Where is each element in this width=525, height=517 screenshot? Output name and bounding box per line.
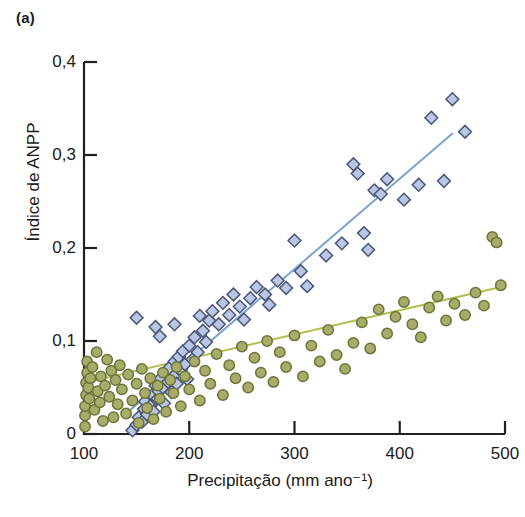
y-axis-tick-label: 0 — [20, 424, 76, 444]
data-point — [357, 317, 367, 327]
data-point — [152, 380, 162, 390]
data-point — [348, 338, 358, 348]
data-point — [161, 406, 171, 416]
data-point — [91, 347, 101, 357]
data-point — [140, 388, 150, 398]
data-point — [446, 93, 459, 106]
data-point — [432, 291, 442, 301]
data-point — [331, 350, 341, 360]
data-point — [110, 375, 120, 385]
data-point — [168, 318, 181, 331]
data-point — [407, 319, 417, 329]
data-point — [217, 296, 230, 309]
data-point — [275, 347, 285, 357]
data-point — [496, 280, 506, 290]
data-point — [362, 243, 375, 256]
data-point — [102, 354, 112, 364]
data-point — [449, 299, 459, 309]
data-point — [459, 125, 472, 138]
data-point — [249, 353, 259, 363]
data-point — [425, 111, 438, 124]
data-point — [460, 310, 470, 320]
x-axis-tick-label: 200 — [175, 444, 203, 464]
x-axis-tick-label: 400 — [386, 444, 414, 464]
data-point — [205, 379, 215, 389]
x-axis-tick-label: 500 — [491, 444, 519, 464]
y-axis-tick-label: 0,2 — [20, 238, 76, 258]
data-point — [374, 304, 384, 314]
data-point — [390, 312, 400, 322]
data-point — [237, 341, 247, 351]
data-point — [108, 412, 118, 422]
data-point — [320, 249, 333, 262]
data-point — [223, 309, 236, 322]
y-axis-label: Índice de ANPP — [24, 72, 44, 292]
data-point — [340, 364, 350, 374]
x-axis-tick-label: 100 — [70, 444, 98, 464]
x-axis-tick-label: 300 — [280, 444, 308, 464]
y-axis-tick-label: 0,3 — [20, 145, 76, 165]
y-axis-tick-label: 0,1 — [20, 331, 76, 351]
data-point — [137, 364, 147, 374]
data-point — [211, 349, 221, 359]
data-point — [104, 392, 114, 402]
data-point — [84, 393, 94, 403]
data-point — [200, 366, 210, 376]
data-point — [98, 416, 108, 426]
data-point — [121, 408, 131, 418]
data-point — [117, 384, 127, 394]
data-point — [288, 234, 301, 247]
data-point — [298, 371, 308, 381]
data-point — [184, 384, 194, 394]
data-point — [112, 399, 122, 409]
data-point — [315, 356, 325, 366]
data-point — [127, 395, 137, 405]
data-point — [115, 360, 125, 370]
data-point — [95, 397, 105, 407]
x-axis-label: Precipitação (mm ano⁻¹) — [60, 470, 500, 491]
data-point — [189, 356, 199, 366]
data-point — [256, 367, 266, 377]
data-point — [80, 421, 90, 431]
data-point — [335, 237, 348, 250]
data-point — [289, 330, 299, 340]
data-point — [180, 371, 190, 381]
data-point — [195, 395, 205, 405]
data-point — [262, 336, 272, 346]
data-point — [381, 173, 394, 186]
scatter-plot-canvas — [0, 0, 525, 517]
data-point — [87, 362, 97, 372]
data-point — [131, 379, 141, 389]
data-point — [134, 418, 144, 428]
data-point — [142, 403, 152, 413]
data-point — [491, 237, 501, 247]
data-point — [176, 401, 186, 411]
data-point — [479, 300, 489, 310]
data-point — [130, 311, 143, 324]
figure-panel-a: (a) Índice de ANPP Precipitação (mm ano⁻… — [0, 0, 525, 517]
data-point — [306, 340, 316, 350]
data-point — [243, 382, 253, 392]
data-point — [155, 393, 165, 403]
data-point — [441, 315, 451, 325]
data-point — [100, 380, 110, 390]
data-point — [424, 302, 434, 312]
data-point — [382, 328, 392, 338]
data-point — [301, 280, 314, 293]
data-point — [230, 373, 240, 383]
data-point — [399, 297, 409, 307]
panel-label: (a) — [16, 9, 35, 26]
data-point — [227, 288, 240, 301]
data-point — [470, 287, 480, 297]
data-point — [365, 343, 375, 353]
marker-layer — [80, 93, 506, 437]
data-point — [323, 325, 333, 335]
data-point — [224, 360, 234, 370]
y-axis-tick-label: 0,4 — [20, 52, 76, 72]
data-point — [123, 369, 133, 379]
data-point — [358, 227, 371, 240]
data-point — [412, 178, 425, 191]
data-point — [165, 375, 175, 385]
data-point — [438, 175, 451, 188]
data-point — [148, 414, 158, 424]
